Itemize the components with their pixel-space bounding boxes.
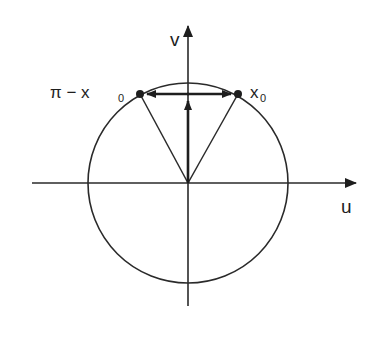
diagram-canvas: v u π − x 0 x 0 xyxy=(0,0,383,348)
radius-right xyxy=(188,94,238,183)
v-axis-label: v xyxy=(170,29,180,50)
label-x0-subscript: 0 xyxy=(260,92,266,104)
label-x0-main: x xyxy=(250,83,259,102)
point-pi-minus-x0 xyxy=(136,90,144,98)
u-axis-label: u xyxy=(341,196,352,217)
point-x0 xyxy=(234,90,242,98)
label-pi-minus-x0-main: π − x xyxy=(50,83,90,102)
label-x0: x 0 xyxy=(250,83,266,104)
radius-left xyxy=(140,94,188,183)
label-pi-minus-x0: π − x 0 xyxy=(50,83,124,104)
label-pi-minus-x0-subscript: 0 xyxy=(118,92,124,104)
unit-circle-diagram: v u π − x 0 x 0 xyxy=(0,0,383,348)
